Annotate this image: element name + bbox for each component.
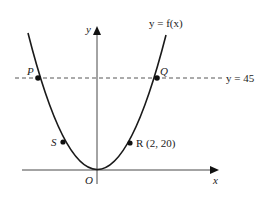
origin-label: O	[85, 174, 93, 186]
point-r	[127, 140, 132, 145]
function-graph: y = f(x) y = 45 y x O P Q S R (2, 20)	[0, 0, 266, 199]
y-axis	[93, 26, 101, 184]
y-axis-arrow-icon	[93, 26, 101, 35]
point-q	[154, 75, 160, 81]
x-axis	[22, 166, 219, 174]
point-p-label: P	[26, 65, 34, 77]
point-p	[35, 75, 41, 81]
curve-label: y = f(x)	[149, 17, 183, 30]
x-axis-arrow-icon	[210, 166, 219, 174]
x-axis-label: x	[212, 174, 218, 186]
point-s-label: S	[51, 136, 57, 148]
y-axis-label: y	[85, 23, 91, 35]
point-q-label: Q	[160, 65, 168, 77]
point-r-label: R (2, 20)	[136, 137, 176, 150]
point-s	[60, 139, 65, 144]
line-label: y = 45	[226, 72, 255, 84]
